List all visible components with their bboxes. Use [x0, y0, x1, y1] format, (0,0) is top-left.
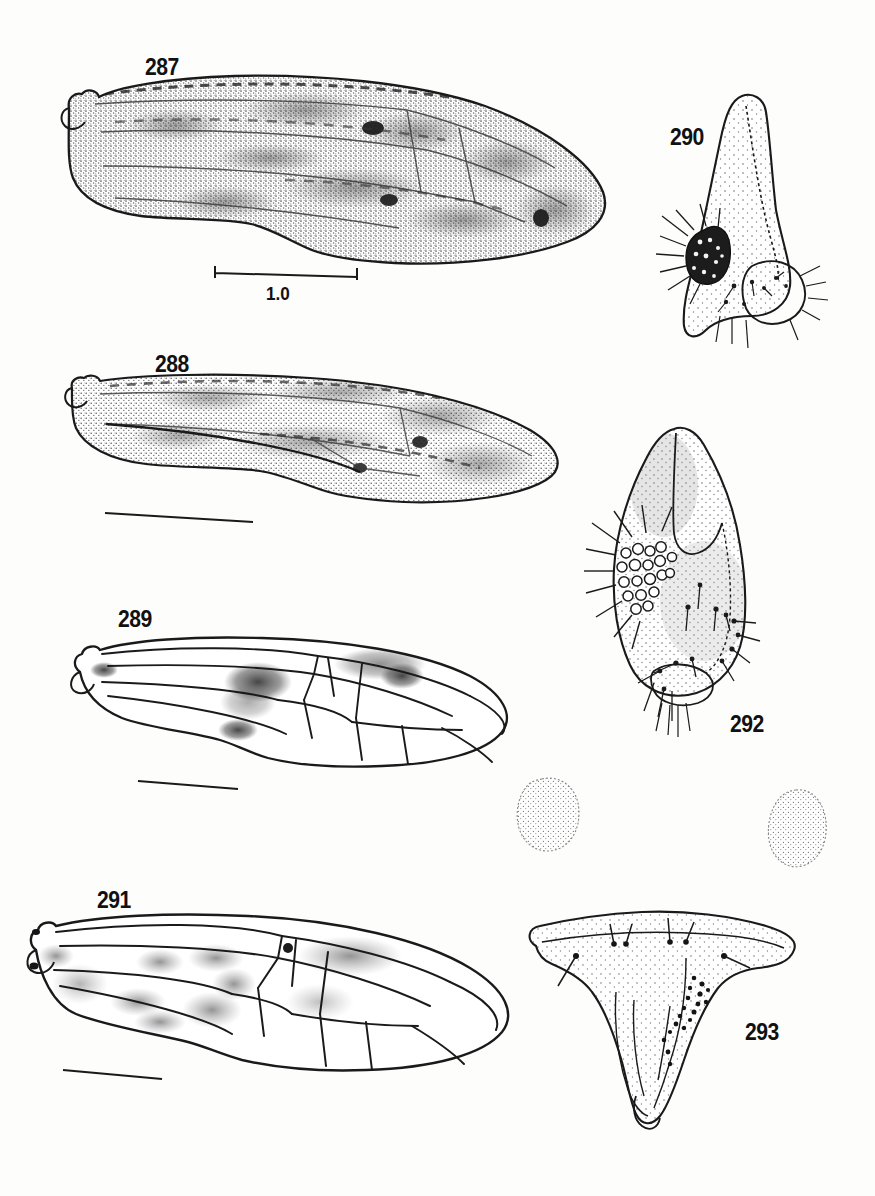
scale-bar-291	[58, 1066, 170, 1086]
figure-289	[62, 630, 532, 780]
figure-label-290: 290	[670, 126, 704, 149]
figure-291	[20, 910, 540, 1090]
scale-bar-label-287: 1.0	[266, 283, 290, 305]
figure-label-288: 288	[155, 353, 189, 376]
figure-label-289: 289	[118, 608, 152, 631]
illustration-plate: 287 1.0	[0, 0, 875, 1196]
figure-label-293: 293	[745, 1021, 779, 1044]
stippled-sclerite-left	[512, 775, 592, 860]
scale-bar-288	[100, 506, 260, 528]
gonocoxite-body-292	[588, 425, 798, 765]
figure-292	[588, 425, 798, 765]
scale-bar-287	[210, 262, 370, 288]
figure-label-292: 292	[730, 713, 764, 736]
figure-label-291: 291	[97, 889, 131, 912]
stippled-sclerite-right	[762, 786, 837, 874]
scale-bar-289	[134, 776, 244, 796]
basal-setae-292	[656, 703, 690, 737]
figure-label-287: 287	[145, 56, 179, 79]
